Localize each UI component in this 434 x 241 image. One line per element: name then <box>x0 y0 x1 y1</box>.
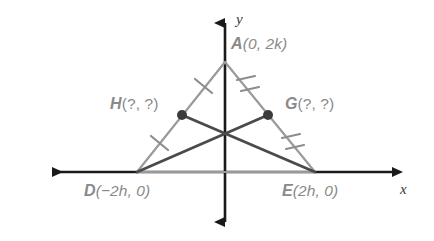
tick-mark-AG-double-second <box>241 87 259 91</box>
point-label-D: D(−2h, 0) <box>84 183 150 199</box>
y-axis-label: y <box>236 12 243 27</box>
geometry-figure: A(0, 2k) H(?, ?) G(?, ?) D(−2h, 0) E(2h,… <box>0 0 434 241</box>
point-name-H: H <box>110 95 122 112</box>
point-coords-A: (0, 2k) <box>243 35 288 52</box>
point-coords-H: (?, ?) <box>122 95 159 112</box>
tick-marks-group <box>151 76 304 150</box>
point-label-G: G(?, ?) <box>285 96 334 112</box>
point-coords-E: (2h, 0) <box>293 182 339 199</box>
point-name-D: D <box>84 182 96 199</box>
point-name-E: E <box>282 182 293 199</box>
point-name-G: G <box>285 95 298 112</box>
point-label-E: E(2h, 0) <box>282 183 338 199</box>
figure-canvas <box>0 0 434 241</box>
point-name-A: A <box>231 35 243 52</box>
x-axis-label: x <box>400 182 407 197</box>
tick-mark-AG-double-first <box>237 76 255 80</box>
point-coords-G: (?, ?) <box>298 95 335 112</box>
point-dot-H[interactable] <box>177 110 187 120</box>
point-label-H: H(?, ?) <box>110 96 158 112</box>
point-dot-G[interactable] <box>263 110 273 120</box>
point-coords-D: (−2h, 0) <box>96 182 151 199</box>
point-label-A: A(0, 2k) <box>231 36 287 52</box>
